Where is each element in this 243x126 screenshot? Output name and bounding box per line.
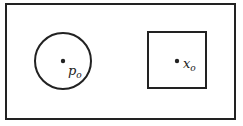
- point-p0: [61, 59, 65, 63]
- label-x0: xo: [183, 56, 196, 73]
- diagram: po xo: [0, 0, 243, 126]
- point-x0: [175, 59, 179, 63]
- label-p0: po: [68, 63, 82, 80]
- outer-frame: [6, 4, 235, 119]
